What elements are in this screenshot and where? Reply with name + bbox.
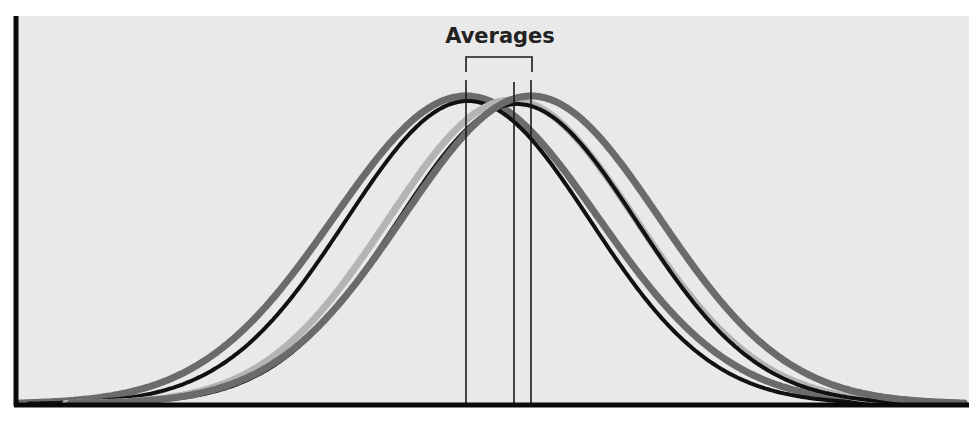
averages-label: Averages — [445, 24, 555, 48]
chart-canvas: Averages — [0, 0, 969, 423]
plot-panel — [18, 16, 969, 404]
bell-curve-chart: Averages — [0, 0, 969, 423]
